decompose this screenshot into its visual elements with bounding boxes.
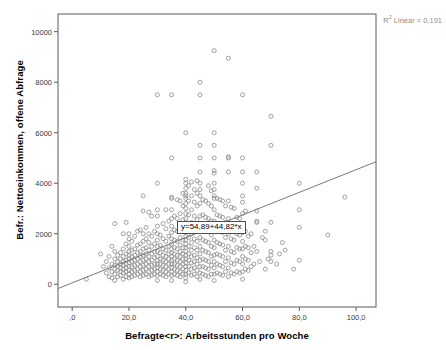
y-tick-label: 6000 bbox=[6, 128, 52, 137]
regression-equation-label: y=54,89+44,82*x bbox=[177, 221, 246, 234]
x-tick-label: 80,0 bbox=[292, 313, 307, 322]
y-tick-label: 10000 bbox=[6, 27, 52, 36]
y-tick-label: 8000 bbox=[6, 78, 52, 87]
r-squared-value-text: Linear = 0,191 bbox=[394, 16, 442, 25]
y-tick-label: 2000 bbox=[6, 229, 52, 238]
plot-canvas bbox=[0, 0, 446, 350]
x-tick-label: ,0 bbox=[69, 313, 75, 322]
x-axis-title: Befragte<r>: Arbeitsstunden pro Woche bbox=[58, 330, 376, 341]
x-tick-label: 100,0 bbox=[347, 313, 366, 322]
x-tick-label: 40,0 bbox=[178, 313, 193, 322]
x-tick-label: 60,0 bbox=[235, 313, 250, 322]
scatter-plot-figure: Befr.: Nettoeinkommen, offene Abfrage Be… bbox=[0, 0, 446, 350]
y-tick-label: 0 bbox=[6, 280, 52, 289]
y-tick-label: 4000 bbox=[6, 179, 52, 188]
r-squared-exponent: 2 bbox=[389, 14, 392, 20]
r-squared-annotation: R2 Linear = 0,191 bbox=[383, 14, 442, 25]
x-tick-label: 20,0 bbox=[122, 313, 137, 322]
y-axis-title: Befr.: Nettoeinkommen, offene Abfrage bbox=[14, 14, 25, 286]
